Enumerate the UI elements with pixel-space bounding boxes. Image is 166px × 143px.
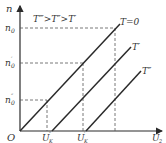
svg-text:′: ′ bbox=[11, 55, 13, 62]
y-tick-n0: n 0 bbox=[5, 23, 15, 34]
y-tick-n0-prime: n 0 ′ bbox=[5, 55, 15, 69]
x-tick-uk-prime: U K ′ bbox=[77, 130, 88, 143]
curve-t0 bbox=[20, 24, 120, 131]
x-axis-label: U 2 bbox=[152, 133, 162, 143]
curve-label-t-double-prime: T″ bbox=[142, 66, 152, 76]
curve-t-prime bbox=[52, 47, 131, 131]
y-axis-label: n bbox=[6, 3, 12, 14]
y-tick-n0-double-prime: n 0 ″ bbox=[5, 92, 15, 106]
svg-text:2: 2 bbox=[158, 138, 162, 143]
svg-text:0: 0 bbox=[11, 62, 15, 69]
curve-label-t-prime: T′ bbox=[132, 42, 140, 52]
curve-label-t0: T=0 bbox=[120, 17, 140, 27]
svg-text:″: ″ bbox=[11, 92, 14, 99]
origin-label: O bbox=[7, 132, 15, 143]
curve-t-double-prime bbox=[86, 71, 141, 131]
svg-text:K: K bbox=[48, 138, 53, 143]
characteristic-diagram: n O T‴>T″>T′ T=0 T′ T″ n 0 n 0 ′ n 0 ″ U… bbox=[0, 0, 166, 143]
relation-label: T‴>T″>T′ bbox=[33, 14, 76, 24]
svg-text:0: 0 bbox=[11, 99, 15, 106]
x-tick-uk-double-prime: U K ″ bbox=[42, 130, 53, 143]
svg-text:K: K bbox=[83, 138, 88, 143]
svg-text:0: 0 bbox=[11, 27, 15, 34]
